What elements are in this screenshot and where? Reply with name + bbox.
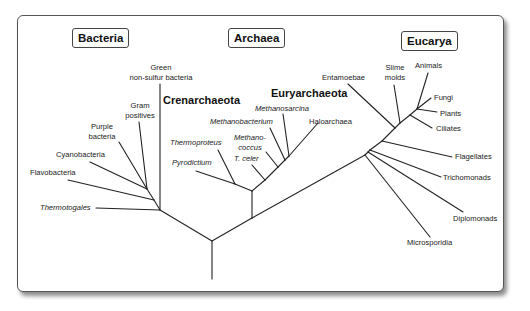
microsporidia-branch: [365, 155, 430, 237]
flagellates-branch: [382, 141, 452, 157]
label-line: Methano-: [232, 133, 268, 143]
label-fungi: Fungi: [434, 93, 453, 103]
label-line: bacteria: [86, 132, 118, 142]
label-methanobacterium: Methanobacterium: [210, 117, 273, 127]
euk-inner5: [395, 123, 400, 128]
label-green-nonsulfur: Green non-sulfur bacteria: [126, 63, 196, 83]
domain-eucarya: Eucarya: [401, 31, 458, 51]
label-methanosarcina: Methanosarcina: [255, 104, 309, 114]
trichomonads-branch: [370, 150, 441, 177]
methanobacterium-branch: [270, 128, 285, 160]
label-line: Slime: [381, 63, 409, 73]
plants-branch: [417, 109, 437, 112]
label-line: Purple: [86, 122, 118, 132]
eucarya-trunk: [252, 155, 365, 218]
label-entamoebae: Entamoebae: [322, 73, 365, 83]
eury-inner2: [278, 160, 285, 167]
methanosarcina-branch: [283, 114, 289, 156]
label-ciliates: Ciliates: [436, 124, 461, 134]
group-crenarchaeota: Crenarchaeota: [163, 94, 240, 106]
thermotogales-branch: [96, 208, 160, 210]
label-plants: Plants: [440, 109, 461, 119]
euk-inner3: [370, 141, 382, 150]
label-animals: Animals: [415, 61, 442, 71]
bacteria-inner: [154, 200, 160, 210]
flavobacteria-branch: [68, 180, 154, 200]
euk-inner6: [400, 115, 410, 123]
domain-archaea: Archaea: [228, 28, 285, 48]
label-slime-molds: Slime molds: [381, 63, 409, 83]
bacteria-trunk: [160, 210, 212, 241]
label-microsporidia: Microsporidia: [407, 238, 452, 248]
domain-bacteria: Bacteria: [72, 28, 129, 48]
archaea-eucarya-trunk: [212, 218, 252, 241]
label-line: Gram: [122, 101, 158, 111]
label-flavobacteria: Flavobacteria: [30, 168, 76, 178]
label-line: non-sulfur bacteria: [126, 73, 196, 83]
label-line: Green: [126, 63, 196, 73]
label-gram-positives: Gram positives: [122, 101, 158, 121]
label-line: positives: [122, 111, 158, 121]
label-haloarchaea: Haloarchaea: [309, 117, 352, 127]
label-diplomonads: Diplomonads: [453, 214, 497, 224]
ciliates-branch: [410, 115, 432, 128]
eury-inner1: [265, 167, 278, 180]
methanococcus-branch: [266, 152, 278, 167]
euryarchaeota-stem: [252, 180, 265, 191]
label-cyanobacteria: Cyanobacteria: [56, 150, 105, 160]
label-purple-bacteria: Purple bacteria: [86, 122, 118, 142]
eury-inner3: [285, 156, 289, 160]
t-celer-branch: [252, 165, 265, 180]
label-pyrodictium: Pyrodictium: [172, 158, 212, 168]
entamoebae-branch: [348, 84, 395, 128]
haloarchaea-branch: [289, 123, 318, 156]
label-t-celer: T. celer: [234, 154, 259, 164]
crenarchaeota-branch: [235, 184, 252, 191]
euk-inner7: [410, 109, 417, 115]
gram-positives-branch: [139, 122, 147, 189]
group-euryarchaeota: Euryarchaeota: [271, 87, 347, 99]
label-methanococcus: Methano- coccus: [232, 133, 268, 153]
label-flagellates: Flagellates: [455, 152, 492, 162]
euk-inner4: [382, 128, 395, 141]
label-thermoproteus: Thermoproteus: [170, 138, 222, 148]
animals-branch: [417, 73, 428, 109]
label-thermotogales: Thermotogales: [40, 203, 91, 213]
label-line: molds: [381, 73, 409, 83]
slime-molds-branch: [394, 85, 400, 123]
euk-inner1: [365, 152, 368, 155]
label-line: coccus: [232, 143, 268, 153]
label-trichomonads: Trichomonads: [443, 173, 491, 183]
